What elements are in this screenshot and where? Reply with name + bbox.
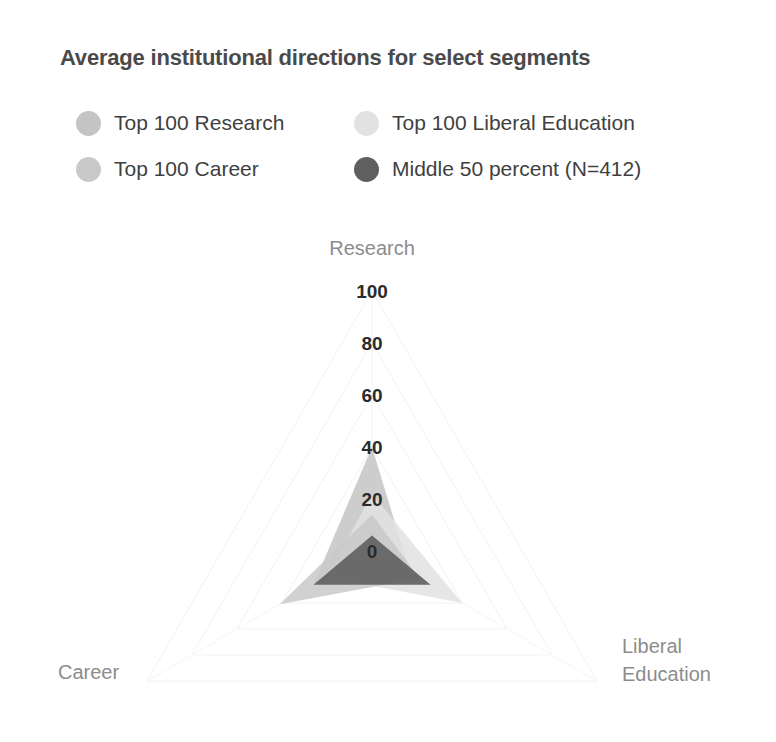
legend-item-label: Top 100 Research — [114, 111, 284, 135]
radar-chart: 020406080100 ResearchLiberalEducationCar… — [0, 210, 776, 730]
legend-swatch-icon — [76, 111, 101, 136]
radar-series-polygons — [280, 447, 462, 604]
legend-swatch-icon — [76, 157, 101, 182]
legend-swatch-icon — [354, 157, 379, 182]
legend-swatch-icon — [354, 111, 379, 136]
radial-tick-label: 80 — [361, 333, 382, 354]
radar-axis-labels: ResearchLiberalEducationCareer — [58, 237, 711, 685]
radial-tick-label: 0 — [367, 541, 378, 562]
chart-legend: Top 100 Research Top 100 Liberal Educati… — [76, 100, 736, 192]
legend-item-label: Top 100 Liberal Education — [392, 111, 635, 135]
axis-label-liberal-education: Liberal — [622, 635, 682, 657]
legend-item-top-100-research[interactable]: Top 100 Research — [76, 111, 354, 136]
radial-tick-label: 40 — [361, 437, 382, 458]
chart-page: Average institutional directions for sel… — [0, 0, 776, 742]
page-title: Average institutional directions for sel… — [60, 45, 590, 71]
legend-item-label: Middle 50 percent (N=412) — [392, 157, 641, 181]
legend-item-label: Top 100 Career — [114, 157, 259, 181]
legend-item-top-100-liberal-education[interactable]: Top 100 Liberal Education — [354, 111, 736, 136]
radial-tick-label: 60 — [361, 385, 382, 406]
radial-tick-label: 100 — [356, 281, 388, 302]
radar-svg: 020406080100 ResearchLiberalEducationCar… — [0, 210, 776, 730]
axis-label-liberal-education-line2: Education — [622, 663, 711, 685]
legend-item-middle-50-percent[interactable]: Middle 50 percent (N=412) — [354, 157, 736, 182]
legend-item-top-100-career[interactable]: Top 100 Career — [76, 157, 354, 182]
axis-label-research: Research — [329, 237, 415, 259]
axis-label-career: Career — [58, 661, 119, 683]
radial-tick-label: 20 — [361, 489, 382, 510]
